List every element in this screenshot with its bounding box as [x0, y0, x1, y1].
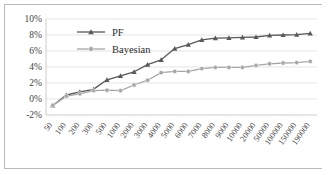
data-point-marker	[91, 88, 95, 92]
data-point-marker	[145, 78, 149, 82]
data-point-marker	[213, 65, 217, 69]
data-point-marker	[254, 63, 258, 67]
data-point-marker	[105, 88, 109, 92]
data-point-marker	[294, 60, 298, 64]
y-tick-label: 10%	[25, 14, 43, 24]
legend-marker-bayesian	[89, 47, 94, 52]
line-chart: 10%8%6%4%2%0%-2% 50100200300500100020003…	[5, 5, 323, 168]
data-point-marker	[227, 65, 231, 69]
data-point-marker	[200, 66, 204, 70]
data-point-marker	[159, 70, 163, 74]
data-point-marker	[118, 88, 122, 92]
y-tick-label: 8%	[29, 30, 42, 40]
legend-label-bayesian: Bayesian	[112, 44, 151, 55]
y-tick-label: -2%	[26, 110, 42, 120]
data-point-marker	[51, 103, 55, 107]
chart-frame: 10%8%6%4%2%0%-2% 50100200300500100020003…	[4, 4, 322, 169]
data-point-marker	[267, 62, 271, 66]
data-point-marker	[78, 92, 82, 96]
data-point-marker	[308, 59, 312, 63]
data-point-marker	[281, 61, 285, 65]
legend-label-pf: PF	[112, 27, 124, 38]
data-point-marker	[132, 83, 136, 87]
y-tick-label: 0%	[29, 94, 42, 104]
data-point-marker	[64, 94, 68, 98]
data-point-marker	[173, 69, 177, 73]
y-tick-label: 2%	[29, 78, 42, 88]
y-tick-label: 6%	[29, 46, 42, 56]
plot-background	[5, 5, 323, 168]
data-point-marker	[240, 65, 244, 69]
y-tick-label: 4%	[29, 62, 42, 72]
data-point-marker	[186, 69, 190, 73]
